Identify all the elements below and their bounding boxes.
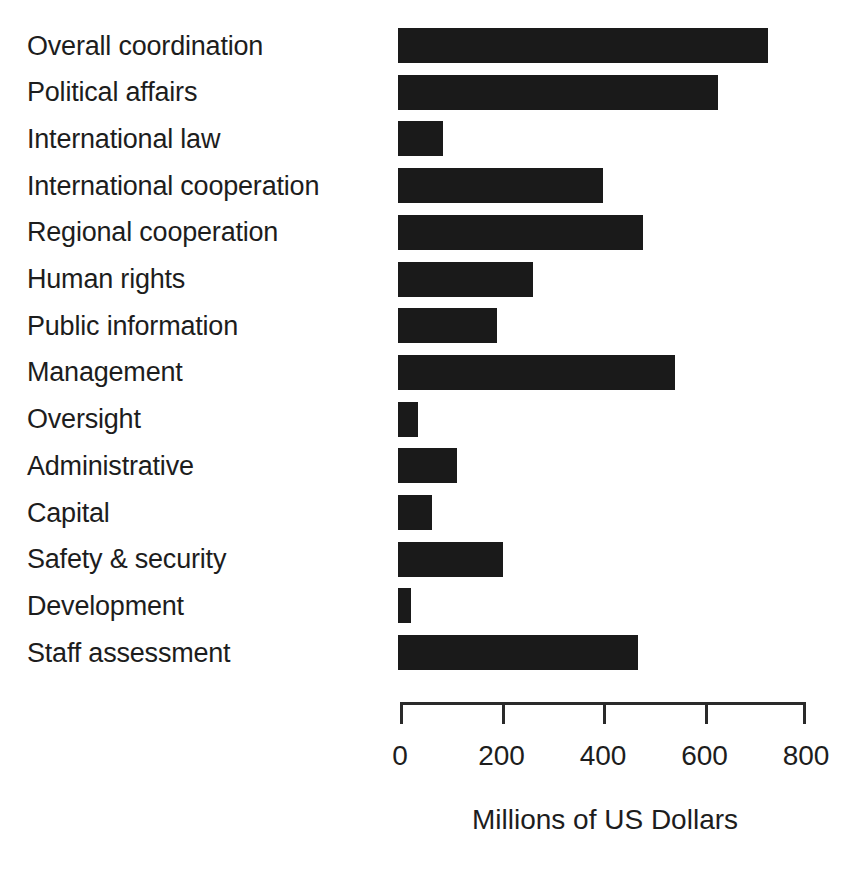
- x-axis-tick-label: 0: [392, 742, 408, 770]
- bar: [398, 635, 638, 670]
- x-axis-tick: [803, 702, 806, 724]
- bar: [398, 495, 432, 530]
- bar: [398, 542, 503, 577]
- x-axis-tick-label: 800: [783, 742, 830, 770]
- bar: [398, 308, 497, 343]
- x-axis-tick-label: 600: [681, 742, 728, 770]
- bar: [398, 262, 533, 297]
- x-axis-tick: [705, 702, 708, 724]
- bar: [398, 355, 675, 390]
- bar-chart: Overall coordinationPolitical affairsInt…: [0, 0, 860, 877]
- x-axis-tick-label: 400: [580, 742, 627, 770]
- bar: [398, 448, 457, 483]
- x-axis: 0200400600800: [0, 0, 860, 180]
- bar: [398, 588, 411, 623]
- bar: [398, 215, 643, 250]
- x-axis-tick: [603, 702, 606, 724]
- x-axis-tick-label: 200: [478, 742, 525, 770]
- x-axis-tick: [502, 702, 505, 724]
- x-axis-tick: [400, 702, 403, 724]
- x-axis-title: Millions of US Dollars: [350, 806, 860, 834]
- bar: [398, 402, 418, 437]
